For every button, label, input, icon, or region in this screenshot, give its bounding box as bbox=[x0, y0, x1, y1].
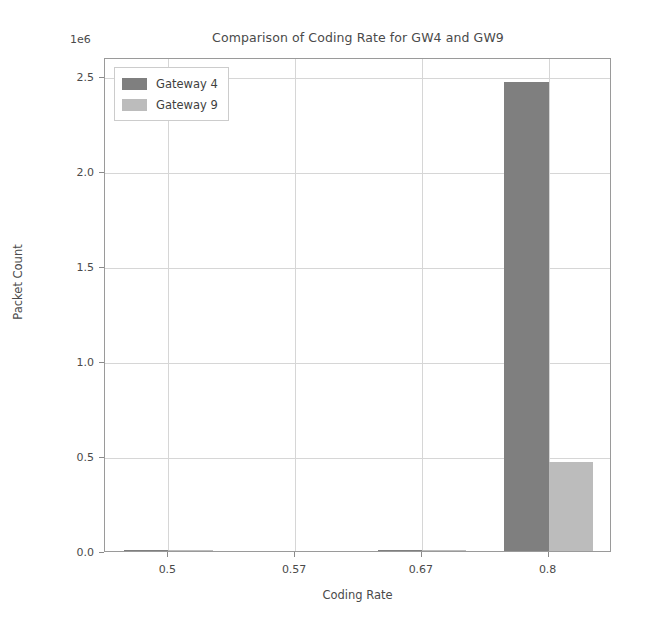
x-tick-mark bbox=[548, 552, 549, 557]
x-tick-label: 0.8 bbox=[518, 563, 578, 576]
bar bbox=[378, 550, 422, 551]
x-axis-ticks: 0.50.570.670.8 bbox=[104, 552, 611, 592]
x-tick-label: 0.67 bbox=[391, 563, 451, 576]
y-tick-label: 1.5 bbox=[54, 261, 94, 274]
x-tick-label: 0.57 bbox=[264, 563, 324, 576]
y-tick-label: 2.0 bbox=[54, 166, 94, 179]
plot-area: Gateway 4 Gateway 9 bbox=[104, 58, 611, 552]
page-title: Comparison of Coding Rate for GW4 and GW… bbox=[104, 30, 612, 45]
y-tick-label: 0.5 bbox=[54, 451, 94, 464]
x-tick-label: 0.5 bbox=[137, 563, 197, 576]
legend-item: Gateway 9 bbox=[122, 94, 218, 115]
bar bbox=[549, 462, 593, 551]
x-tick-mark bbox=[294, 552, 295, 557]
legend-swatch-gateway-9 bbox=[122, 99, 147, 111]
legend-item: Gateway 4 bbox=[122, 73, 218, 94]
x-axis-title: Coding Rate bbox=[104, 588, 611, 602]
y-axis-ticks: 0.00.51.01.52.02.5 bbox=[0, 58, 94, 552]
bar bbox=[124, 550, 168, 551]
bar bbox=[422, 550, 466, 551]
legend: Gateway 4 Gateway 9 bbox=[114, 67, 229, 121]
gridline-vertical bbox=[295, 59, 296, 551]
y-axis-offset-label: 1e6 bbox=[70, 33, 91, 46]
y-tick-label: 1.0 bbox=[54, 356, 94, 369]
x-tick-mark bbox=[421, 552, 422, 557]
bar bbox=[168, 550, 212, 551]
legend-label: Gateway 9 bbox=[156, 98, 218, 112]
legend-label: Gateway 4 bbox=[156, 77, 218, 91]
y-tick-label: 0.0 bbox=[54, 546, 94, 559]
gridline-vertical bbox=[168, 59, 169, 551]
y-tick-label: 2.5 bbox=[54, 71, 94, 84]
chart-figure: Comparison of Coding Rate for GW4 and GW… bbox=[0, 0, 653, 633]
x-tick-mark bbox=[167, 552, 168, 557]
gridline-vertical bbox=[422, 59, 423, 551]
bar bbox=[504, 82, 548, 551]
legend-swatch-gateway-4 bbox=[122, 78, 147, 90]
